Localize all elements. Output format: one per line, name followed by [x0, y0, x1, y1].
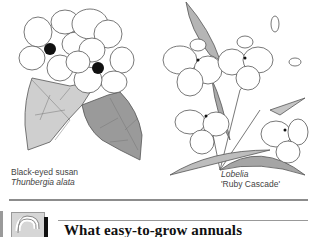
latin-name: Thunbergia alata [11, 177, 78, 187]
black-eyed-susan-illustration [10, 0, 160, 165]
margin-bar [0, 211, 3, 237]
lobelia-caption: Lobelia 'Ruby Cascade' [221, 169, 280, 189]
cultivar-name: 'Ruby Cascade' [221, 179, 280, 189]
latin-name: Lobelia [221, 169, 280, 179]
section-divider [9, 199, 308, 201]
section-number-icon [11, 213, 43, 237]
section-heading: What easy-to-grow annuals [64, 222, 242, 237]
lobelia-illustration [150, 0, 310, 190]
heading-rule [58, 220, 308, 221]
common-name: Black-eyed susan [11, 167, 78, 177]
section-number-box-shadow [44, 217, 48, 237]
black-eyed-susan-caption: Black-eyed susan Thunbergia alata [11, 167, 78, 187]
